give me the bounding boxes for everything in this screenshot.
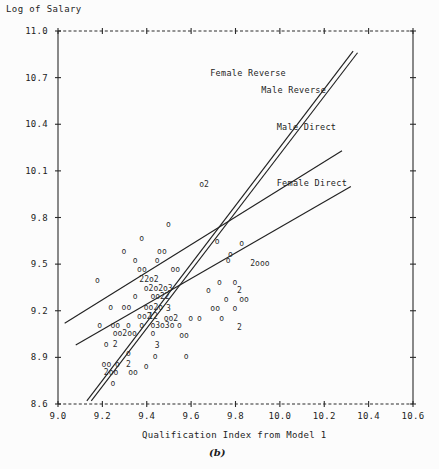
scatter-point: o <box>233 305 238 313</box>
x-axis-title: Qualification Index from Model 1 <box>142 430 327 440</box>
scatter-point: oo22 <box>150 293 169 301</box>
scatter-point: oo <box>239 296 249 304</box>
scatter-point: 22o2 <box>139 276 158 284</box>
scatter-point: o <box>104 341 109 349</box>
scatter-point: oo2o <box>144 304 163 312</box>
y-tick-label: 9.8 <box>14 213 48 223</box>
scatter-point: o <box>217 279 222 287</box>
x-tick-label: 9.8 <box>219 411 253 421</box>
x-tick-label: 9.4 <box>130 411 164 421</box>
x-tick-label: 10.2 <box>307 411 341 421</box>
scatter-point: o <box>188 315 193 323</box>
scatter-point: o <box>197 315 202 323</box>
scatter-point: oo2oo <box>113 330 137 338</box>
x-tick-label: 10.0 <box>263 411 297 421</box>
scatter-point: o <box>206 287 211 295</box>
scatter-point: 2 <box>237 324 242 332</box>
scatter-point: o <box>126 350 131 358</box>
y-tick-label: 9.5 <box>14 259 48 269</box>
regression-line-male-reverse <box>91 53 357 401</box>
scatter-point: 2 <box>113 341 118 349</box>
scatter-point: o <box>108 304 113 312</box>
scatter-point: o <box>133 257 138 265</box>
scatter-point: o <box>239 240 244 248</box>
scatter-point: o <box>184 353 189 361</box>
scatter-point: o <box>122 248 127 256</box>
y-tick-label: 8.6 <box>14 399 48 409</box>
scatter-point: oo <box>170 266 180 274</box>
scatter-point: o <box>215 238 220 246</box>
scatter-point: oo <box>122 304 132 312</box>
scatter-point: 2 <box>237 287 242 295</box>
series-label-female-direct: Female Direct <box>277 178 347 188</box>
scatter-point: 3 <box>166 305 171 313</box>
y-tick-label: 9.2 <box>14 306 48 316</box>
scatter-point: 2oo <box>104 369 118 377</box>
x-tick-label: 10.6 <box>396 411 430 421</box>
scatter-point: o <box>226 257 231 265</box>
figure-panel-b: Log of Salary 11.010.710.410.19.89.59.28… <box>0 0 439 469</box>
scatter-point: o <box>166 221 171 229</box>
y-tick-label: 11.0 <box>14 26 48 36</box>
scatter-point: 12 <box>148 313 158 321</box>
x-tick-label: 10.4 <box>352 411 386 421</box>
x-tick-label: 9.6 <box>174 411 208 421</box>
y-tick-label: 10.4 <box>14 119 48 129</box>
scatter-point: o <box>150 330 155 338</box>
scatter-point: o <box>97 322 102 330</box>
series-label-male-direct: Male Direct <box>277 122 337 132</box>
scatter-point: o <box>219 315 224 323</box>
scatter-point: o <box>144 363 149 371</box>
x-tick-label: 9.2 <box>85 411 119 421</box>
scatter-point: o <box>155 257 160 265</box>
scatter-point: o <box>139 235 144 243</box>
scatter-point: o2 <box>199 181 209 189</box>
scatter-point: o <box>133 293 138 301</box>
scatter-point: 3 <box>155 342 160 350</box>
scatter-point: oo <box>157 248 167 256</box>
scatter-point: o <box>139 322 144 330</box>
y-tick-label: 8.9 <box>14 352 48 362</box>
scatter-point: o <box>224 296 229 304</box>
scatter-point: oo <box>179 332 189 340</box>
scatter-point: o <box>153 353 158 361</box>
series-label-male-reverse: Male Reverse <box>261 85 326 95</box>
scatter-point: o <box>95 277 100 285</box>
scatter-point: oo <box>128 369 138 377</box>
scatter-point: 2ooo <box>250 260 269 268</box>
x-tick-label: 9.0 <box>41 411 75 421</box>
y-tick-label: 10.7 <box>14 73 48 83</box>
y-tick-label: 10.1 <box>14 166 48 176</box>
scatter-point: o <box>110 380 115 388</box>
panel-label: (b) <box>209 447 225 458</box>
scatter-point: oo <box>210 305 220 313</box>
series-label-female-reverse: Female Reverse <box>210 68 286 78</box>
scatter-point: oo <box>137 266 147 274</box>
scatter-point: o <box>177 322 182 330</box>
regression-line-male-direct <box>65 151 342 324</box>
